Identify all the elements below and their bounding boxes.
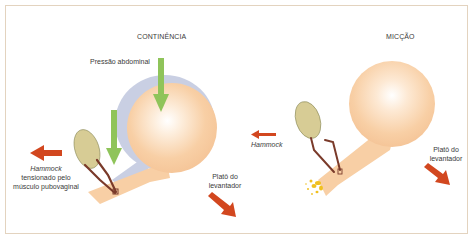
pubic-bone-right [291, 98, 326, 142]
hammock-label-line3: músculo pubovaginal [8, 182, 84, 191]
urine-spray [305, 180, 323, 195]
hammock-label-line2: tensionado pelo [8, 173, 84, 182]
hammock-label-right: Hammock [251, 140, 283, 149]
hammock-label-line1: Hammock [8, 164, 84, 173]
micturition-title: MICÇÃO [386, 32, 415, 41]
levator-label-left-line1: Platô do [203, 172, 247, 181]
bladder-voiding [349, 61, 435, 147]
levator-label-right-line1: Platô do [424, 145, 468, 154]
micturition-illustration [291, 61, 450, 196]
hammock-arrow-center [251, 130, 276, 139]
continence-illustration [30, 58, 236, 217]
levator-plateau-label-left: Platô do levantador [203, 172, 247, 190]
hammock-tension-label: Hammock tensionado pelo músculo pubovagi… [8, 164, 84, 191]
bladder [127, 83, 217, 173]
levator-force-arrow-left [208, 192, 236, 217]
levator-label-right-line2: levantador [424, 154, 468, 163]
hammock-force-arrow [30, 145, 62, 161]
levator-force-arrow-right [424, 163, 450, 185]
continence-title: CONTINÊNCIA [137, 32, 186, 41]
levator-label-left-line2: levantador [203, 181, 247, 190]
levator-plateau-label-right: Platô do levantador [424, 145, 468, 163]
abdominal-pressure-label: Pressão abdominal [90, 57, 150, 66]
